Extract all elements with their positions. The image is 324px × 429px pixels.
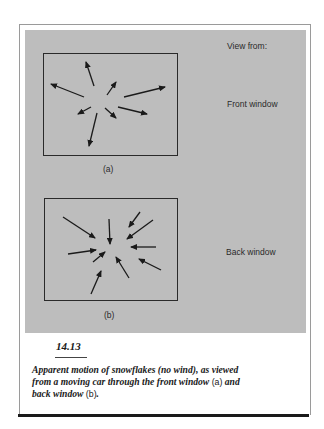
back-window-label: Back window — [226, 247, 276, 257]
snowflake-motion-arrow — [107, 82, 116, 95]
caption-ref-a: (a) — [212, 377, 223, 387]
caption-text-3: . — [97, 388, 99, 399]
panel-b-arrows — [63, 212, 161, 294]
front-window-label: Front window — [227, 99, 278, 109]
snowflake-motion-arrow — [89, 113, 97, 146]
snowflake-motion-arrow — [118, 107, 147, 114]
panel-b-window-frame — [45, 199, 178, 301]
snowflake-motion-arrow — [124, 87, 165, 97]
snowflake-motion-arrow — [68, 250, 96, 254]
snowflake-motion-arrow — [109, 219, 110, 244]
figure-number-underline — [55, 357, 87, 358]
figure-number: 14.13 — [56, 340, 81, 352]
figure-caption: Apparent motion of snowflakes (no wind),… — [32, 364, 252, 401]
snowflake-motion-arrow — [127, 220, 153, 239]
snowflake-motion-arrow — [78, 107, 91, 114]
snowflake-motion-arrow — [51, 84, 84, 97]
snowflake-motion-arrow — [116, 257, 129, 278]
snowflake-motion-arrow — [86, 62, 94, 86]
snowflake-motion-arrow — [91, 271, 101, 294]
caption-text-1: Apparent motion of snowflakes (no wind),… — [32, 364, 238, 387]
snowflake-motion-arrow — [93, 252, 105, 262]
caption-ref-b: (b) — [86, 389, 97, 399]
snowflake-motion-arrow — [105, 108, 116, 118]
snowflake-motion-arrow — [63, 217, 95, 238]
panel-a-arrows — [51, 62, 165, 146]
panel-a-window-frame — [44, 54, 178, 156]
panel-a-sublabel: (a) — [103, 164, 113, 174]
panel-b-sublabel: (b) — [104, 310, 114, 320]
snowflake-motion-arrow — [129, 212, 140, 227]
snowflake-motion-arrow — [139, 259, 161, 270]
view-from-label: View from: — [227, 41, 267, 51]
bottom-rule — [18, 414, 309, 417]
